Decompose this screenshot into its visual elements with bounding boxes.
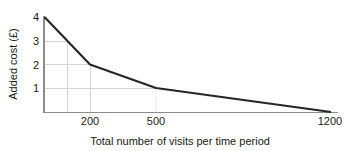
x-tick-label-500: 500 <box>147 115 165 127</box>
y-tick-label-3: 3 <box>33 35 39 47</box>
y-axis-title: Added cost (£) <box>7 28 19 100</box>
y-tick-label-2: 2 <box>33 59 39 71</box>
y-tick-label-1: 1 <box>33 82 39 94</box>
y-tick-label-4: 4 <box>33 11 39 23</box>
x-tick-label-1200: 1200 <box>318 115 342 127</box>
x-tick-label-200: 200 <box>81 115 99 127</box>
chart-container: 4 3 2 1 200 500 1200 Added cost (£) Tota… <box>0 0 345 151</box>
x-axis-title: Total number of visits per time period <box>90 135 270 147</box>
chart-svg: 4 3 2 1 200 500 1200 Added cost (£) Tota… <box>0 0 345 151</box>
